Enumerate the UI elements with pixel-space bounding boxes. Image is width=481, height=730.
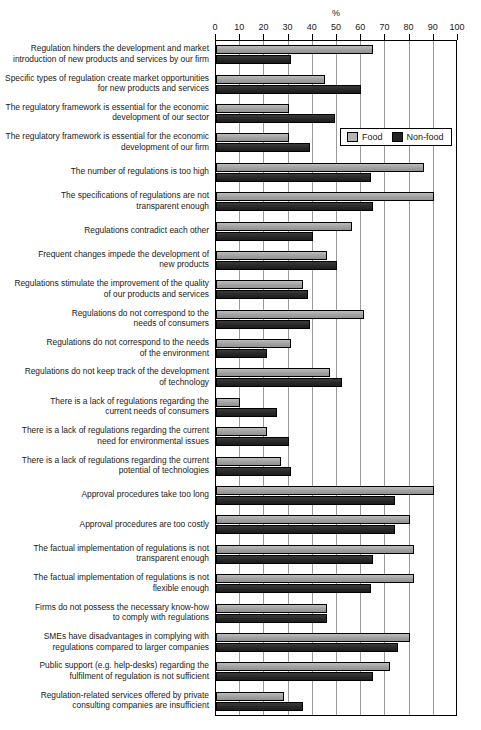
bar-row: Regulations do not correspond to the nee…	[0, 334, 481, 363]
bar-nonfood	[216, 290, 308, 299]
label-line: consulting companies are insufficient	[0, 700, 209, 711]
bar-group	[216, 486, 457, 506]
label-line: potential of technologies	[0, 465, 209, 476]
bar-nonfood	[216, 437, 289, 446]
bar-nonfood	[216, 555, 373, 564]
bar-row: Regulation hinders the development and m…	[0, 40, 481, 69]
bar-row: Regulations contradict each other	[0, 216, 481, 245]
label-line: The regulatory framework is essential fo…	[0, 131, 209, 142]
label-line: The factual implementation of regulation…	[0, 543, 209, 554]
label-line: to comply with regulations	[0, 612, 209, 623]
bar-nonfood	[216, 702, 303, 711]
bar-food	[216, 75, 325, 84]
x-tick-label: 40	[307, 22, 317, 32]
bar-row-label: The regulatory framework is essential fo…	[0, 102, 209, 123]
bar-food	[216, 192, 434, 201]
label-line: Regulation hinders the development and m…	[0, 43, 209, 54]
label-line: Regulations do not correspond to the	[0, 308, 209, 319]
bar-row: The factual implementation of regulation…	[0, 569, 481, 598]
bar-nonfood	[216, 643, 398, 652]
x-tick-mark	[409, 34, 410, 40]
bar-group	[216, 310, 457, 330]
x-tick-mark	[384, 34, 385, 40]
label-line: introduction of new products and service…	[0, 54, 209, 65]
bar-row: Specific types of regulation create mark…	[0, 69, 481, 98]
bar-food	[216, 457, 281, 466]
label-line: for new products and services	[0, 83, 209, 94]
bar-row: There is a lack of regulations regarding…	[0, 451, 481, 480]
bar-row: The specifications of regulations are no…	[0, 187, 481, 216]
label-line: new products	[0, 259, 209, 270]
bar-row-label: Public support (e.g. help-desks) regardi…	[0, 660, 209, 681]
bar-food	[216, 104, 289, 113]
bar-food	[216, 222, 352, 231]
bar-group	[216, 75, 457, 95]
bar-food	[216, 280, 303, 289]
x-tick-label: 80	[404, 22, 414, 32]
bar-food	[216, 398, 240, 407]
bar-row-label: The factual implementation of regulation…	[0, 572, 209, 593]
x-tick-mark	[312, 34, 313, 40]
x-tick-label: 50	[331, 22, 341, 32]
x-tick-label: 30	[283, 22, 293, 32]
bar-food	[216, 368, 330, 377]
label-line: There is a lack of regulations regarding…	[0, 455, 209, 466]
legend-swatch-food	[347, 132, 358, 142]
bar-row: Public support (e.g. help-desks) regardi…	[0, 657, 481, 686]
label-line: SMEs have disadvantages in complying wit…	[0, 631, 209, 642]
legend-item-nonfood: Non-food	[392, 132, 444, 142]
x-tick-mark	[457, 34, 458, 40]
bar-nonfood	[216, 614, 327, 623]
label-line: Approval procedures are too costly	[0, 519, 209, 530]
bar-food	[216, 427, 267, 436]
bar-group	[216, 545, 457, 565]
bar-nonfood	[216, 467, 291, 476]
label-line: Public support (e.g. help-desks) regardi…	[0, 660, 209, 671]
bar-row-label: Regulation hinders the development and m…	[0, 43, 209, 64]
bar-group	[216, 104, 457, 124]
label-line: There is a lack of regulations regarding…	[0, 396, 209, 407]
bar-row: Regulations do not correspond to theneed…	[0, 305, 481, 334]
bar-row: Regulations stimulate the improvement of…	[0, 275, 481, 304]
label-line: Frequent changes impede the development …	[0, 249, 209, 260]
bar-nonfood	[216, 202, 373, 211]
legend-swatch-nonfood	[392, 132, 403, 142]
bar-nonfood	[216, 349, 267, 358]
bar-food	[216, 692, 284, 701]
bar-group	[216, 692, 457, 712]
bar-row: The factual implementation of regulation…	[0, 540, 481, 569]
label-line: regulations compared to larger companies	[0, 642, 209, 653]
bar-row: The number of regulations is too high	[0, 158, 481, 187]
bar-nonfood	[216, 320, 310, 329]
label-line: development of our firm	[0, 142, 209, 153]
bar-row-label: Approval procedures are too costly	[0, 519, 209, 530]
bar-nonfood	[216, 408, 277, 417]
chart-container: % 0102030405060708090100 Regulation hind…	[0, 0, 481, 730]
bar-row: SMEs have disadvantages in complying wit…	[0, 628, 481, 657]
label-line: The regulatory framework is essential fo…	[0, 102, 209, 113]
x-tick-mark	[360, 34, 361, 40]
bar-food	[216, 163, 424, 172]
label-line: of technology	[0, 377, 209, 388]
bar-nonfood	[216, 55, 291, 64]
label-line: development of our sector	[0, 112, 209, 123]
x-tick-mark	[239, 34, 240, 40]
bar-row: Regulations do not keep track of the dev…	[0, 363, 481, 392]
bar-food	[216, 45, 373, 54]
bar-row-label: Regulation-related services offered by p…	[0, 690, 209, 711]
bar-food	[216, 545, 414, 554]
x-tick-label: 70	[379, 22, 389, 32]
label-line: fulfilment of regulation is not sufficie…	[0, 671, 209, 682]
bar-nonfood	[216, 85, 361, 94]
bar-group	[216, 163, 457, 183]
bar-row-label: The specifications of regulations are no…	[0, 190, 209, 211]
bar-nonfood	[216, 584, 371, 593]
label-line: transparent enough	[0, 201, 209, 212]
bar-group	[216, 457, 457, 477]
bar-group	[216, 222, 457, 242]
bar-nonfood	[216, 525, 395, 534]
bar-row: The regulatory framework is essential fo…	[0, 99, 481, 128]
bar-nonfood	[216, 261, 337, 270]
legend-label-food: Food	[362, 132, 383, 142]
x-tick-mark	[215, 34, 216, 40]
